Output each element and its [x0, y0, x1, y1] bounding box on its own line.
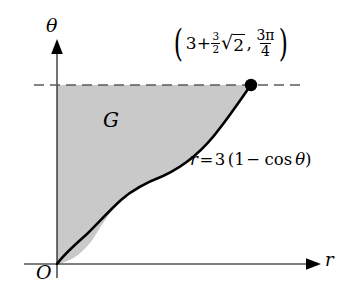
coord-x-integer: 3	[186, 35, 197, 52]
r-axis-label: r	[325, 251, 334, 269]
equation-lhs: r	[190, 150, 198, 169]
coord-open-paren: (	[174, 28, 183, 59]
region-g-shading	[57, 85, 251, 264]
equation-equals: =	[198, 150, 215, 169]
coord-x-fraction-denominator: 2	[211, 43, 220, 55]
equation-open-paren: (	[225, 150, 234, 169]
coord-x-plus: +	[197, 35, 211, 52]
coord-x-radical: √ 2	[221, 33, 245, 55]
theta-axis-label: θ	[46, 16, 57, 35]
coord-y-fraction-numerator: 3π	[255, 28, 275, 43]
equation-coefficient: 3	[215, 150, 226, 169]
r-axis-arrowhead	[306, 258, 321, 270]
endpoint-coordinate-label: ( 3 + 3 2 √ 2 , 3π 4 )	[171, 28, 291, 59]
radical-sign: √	[221, 33, 233, 51]
coord-separator: ,	[245, 35, 255, 52]
equation-variable: θ	[292, 150, 305, 169]
coord-y-fraction: 3π 4	[255, 28, 275, 59]
polar-region-figure: θ r O G r=3(1−cosθ) ( 3 + 3 2 √ 2 , 3π 4…	[0, 0, 348, 305]
origin-label: O	[36, 263, 52, 282]
coord-x-fraction-numerator: 3	[211, 31, 220, 42]
equation-close-paren: )	[305, 150, 311, 169]
region-label-g: G	[103, 110, 119, 130]
equation-cos: cos	[261, 150, 292, 169]
coord-y-fraction-denominator: 4	[260, 43, 271, 59]
equation-minus: −	[245, 150, 262, 169]
coord-x-fraction: 3 2	[211, 31, 220, 55]
equation-one: 1	[234, 150, 245, 169]
curve-equation-label: r=3(1−cosθ)	[190, 152, 312, 169]
theta-axis-arrowhead	[51, 39, 63, 54]
coord-close-paren: )	[279, 28, 288, 59]
endpoint-dot	[245, 79, 257, 91]
radicand: 2	[233, 34, 245, 55]
